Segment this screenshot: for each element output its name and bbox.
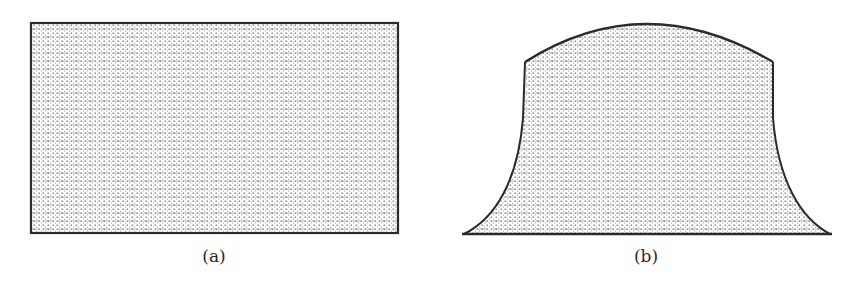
panel-b-fill	[464, 24, 830, 234]
figure-canvas	[0, 0, 858, 284]
panel-b-caption: (b)	[634, 246, 658, 266]
panel-a-rectangle	[31, 23, 398, 233]
panel-a-caption: (a)	[202, 246, 225, 266]
panel-b-deformed-shape	[462, 24, 832, 234]
panel-a-fill	[31, 23, 398, 233]
